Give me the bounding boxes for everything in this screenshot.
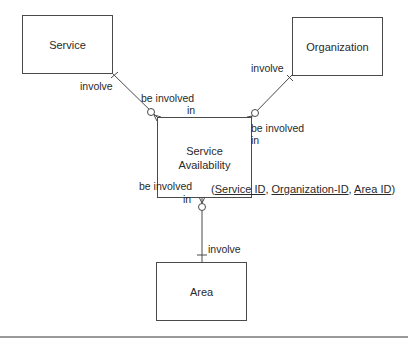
service-sa-label-line2: in bbox=[187, 104, 195, 116]
entity-area-label: Area bbox=[190, 285, 213, 299]
entity-service-label: Service bbox=[49, 38, 86, 52]
key-attr-organization-id: Organization-ID bbox=[272, 183, 349, 195]
org-sa-label-line1: be involved bbox=[251, 122, 304, 134]
key-attr-area-id: Area ID bbox=[354, 183, 391, 195]
org-involve-label: involve bbox=[251, 62, 284, 74]
entity-organization: Organization bbox=[292, 17, 383, 76]
entity-sa-label-line1: Service bbox=[186, 144, 223, 158]
service-optional-circle bbox=[148, 109, 155, 116]
area-optional-circle bbox=[199, 204, 206, 211]
entity-sa-label-line2: Availability bbox=[179, 158, 231, 172]
service-involve-label: involve bbox=[80, 80, 113, 92]
key-close-paren: ) bbox=[391, 183, 395, 195]
entity-area: Area bbox=[156, 262, 247, 321]
org-sa-label-line2: in bbox=[251, 134, 259, 146]
org-optional-circle bbox=[252, 110, 259, 117]
area-sa-label-line2: in bbox=[183, 193, 191, 205]
service-sa-label-line1: be involved bbox=[141, 92, 194, 104]
entity-organization-label: Organization bbox=[306, 40, 368, 54]
area-sa-label-line1: be involved bbox=[139, 180, 192, 192]
composite-key: (Service ID, Organization-ID, Area ID) bbox=[211, 183, 395, 195]
entity-service: Service bbox=[22, 15, 113, 74]
key-attr-service-id: Service ID bbox=[215, 183, 266, 195]
area-involve-label: involve bbox=[208, 243, 241, 255]
